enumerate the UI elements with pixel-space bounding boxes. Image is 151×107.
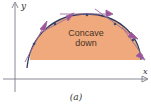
region-label-line1: Concave: [68, 28, 104, 38]
x-axis-label: x: [143, 67, 148, 76]
region-label-line2: down: [75, 38, 97, 48]
figure-caption: (a): [70, 92, 83, 102]
concave-down-diagram: Concave down y x (a): [0, 0, 151, 107]
y-axis-label: y: [20, 1, 27, 11]
